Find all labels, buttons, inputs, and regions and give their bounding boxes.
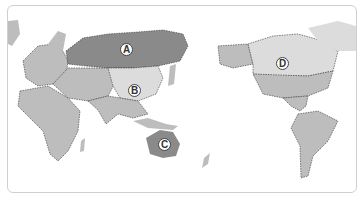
- map-label-c: C: [158, 138, 171, 151]
- region-south-america: [291, 111, 338, 178]
- region-indonesia: [133, 118, 178, 130]
- region-greenland-edge: [8, 20, 20, 46]
- map-label-d: D: [276, 57, 289, 70]
- world-map: [8, 6, 356, 192]
- world-map-frame: A B C D: [7, 5, 357, 193]
- region-central-america: [283, 96, 308, 111]
- region-japan: [168, 64, 176, 86]
- map-label-b: B: [128, 84, 141, 97]
- region-madagascar: [80, 138, 85, 152]
- region-alaska: [218, 44, 253, 68]
- map-label-a: A: [120, 43, 133, 56]
- region-new-zealand: [202, 153, 210, 168]
